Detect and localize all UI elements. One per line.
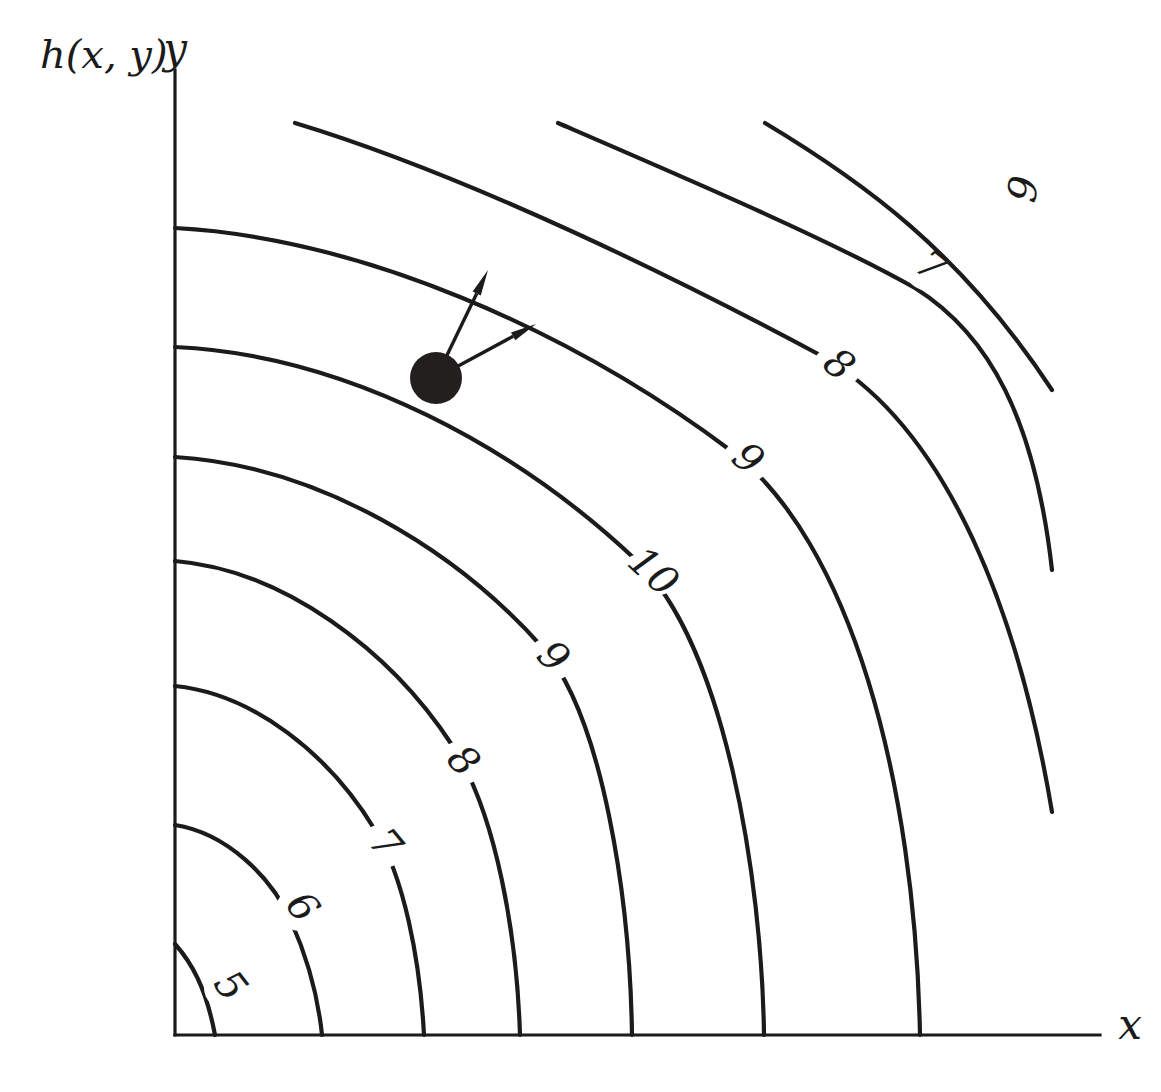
contour-layer: 56789109876 (175, 123, 1052, 1035)
contour-path-level-6 (175, 825, 322, 1035)
contour-label-6: 6 (997, 172, 1047, 205)
contour-plot-canvas: h(x, y) y x 56789109876 (0, 0, 1161, 1092)
contour-path-level-8 (295, 123, 1052, 812)
contour-label-7: 7 (360, 819, 412, 868)
contour-line: 8 (295, 123, 1052, 812)
contour-line: 10 (175, 347, 764, 1035)
contour-path-level-8 (175, 561, 520, 1035)
gradient-vector-head (473, 270, 488, 295)
contour-label-6: 6 (277, 882, 329, 930)
function-label: h(x, y) (40, 31, 168, 77)
evaluation-point-dot (410, 352, 462, 404)
contour-line: 6 (175, 825, 329, 1035)
contour-line: 8 (175, 561, 520, 1035)
x-axis-label: x (1118, 1000, 1142, 1049)
contour-label-8: 8 (438, 735, 489, 785)
contour-path-level-9 (175, 457, 632, 1035)
contour-path-level-7 (175, 686, 424, 1035)
contour-line: 9 (175, 457, 632, 1035)
contour-label-5: 5 (205, 961, 257, 1009)
contour-path-level-10 (175, 347, 764, 1035)
y-axis-label: y (161, 24, 188, 73)
contour-plot-figure: h(x, y) y x 56789109876 (0, 0, 1161, 1092)
contour-line: 7 (175, 686, 424, 1035)
contour-label-9: 9 (724, 432, 773, 483)
contour-label-10: 10 (619, 537, 688, 605)
contour-line: 5 (175, 944, 257, 1035)
